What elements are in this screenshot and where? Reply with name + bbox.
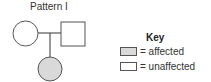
key-item-affected: = affected	[120, 46, 184, 57]
unaffected-swatch-icon	[120, 62, 137, 71]
key-title: Key	[146, 32, 164, 43]
affected-swatch-icon	[120, 47, 137, 56]
key-label-affected: = affected	[140, 46, 184, 57]
daughter-affected-female-icon	[38, 57, 62, 81]
father-unaffected-male-icon	[61, 22, 85, 46]
pedigree-chart	[0, 0, 100, 82]
mother-unaffected-female-icon	[13, 21, 38, 46]
key-item-unaffected: = unaffected	[120, 61, 195, 72]
key-label-unaffected: = unaffected	[140, 61, 195, 72]
